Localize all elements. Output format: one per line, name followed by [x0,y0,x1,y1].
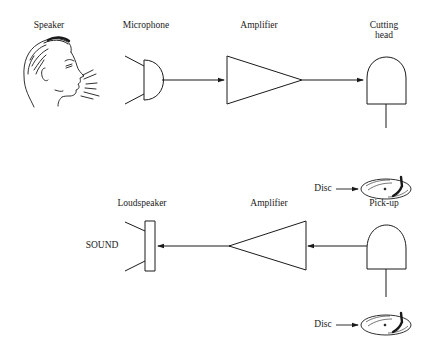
sound-waves-icon [81,70,99,99]
speaker-head-icon [24,37,84,107]
amplifier-bottom-icon [229,221,306,270]
microphone-icon [125,56,164,104]
disc-bottom-icon [361,313,411,335]
diagram-graphics [0,0,428,350]
loudspeaker-icon [125,221,155,271]
cutting-head-icon [367,57,406,128]
amplifier-top-icon [227,56,302,104]
pickup-icon [367,225,406,297]
recording-playback-diagram: Speaker Microphone Amplifier Cutting hea… [0,0,428,350]
disc-top-icon [361,177,411,199]
